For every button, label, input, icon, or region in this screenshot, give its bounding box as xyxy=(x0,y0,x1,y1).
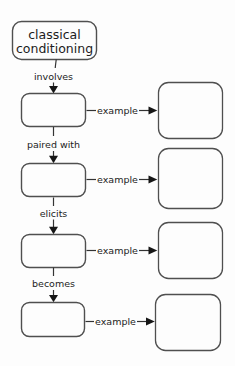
example-connector-2: example xyxy=(87,174,158,185)
example-label-3: example xyxy=(97,245,138,256)
title-line-1: classical xyxy=(28,27,81,42)
arrowhead-right-icon xyxy=(149,176,158,184)
example-label-4: example xyxy=(95,316,136,327)
arrowhead-down-icon xyxy=(49,227,58,235)
arrowhead-down-icon xyxy=(49,86,58,94)
elicits-label: elicits xyxy=(40,208,68,219)
connector-involves: involves xyxy=(34,60,73,94)
arrowhead-right-icon xyxy=(146,318,155,326)
right-box-1 xyxy=(159,83,223,139)
involves-label: involves xyxy=(34,71,73,82)
left-box-2 xyxy=(22,164,86,197)
example-connector-3: example xyxy=(87,245,158,256)
left-box-4 xyxy=(22,303,85,337)
right-box-4 xyxy=(156,295,221,351)
right-box-3 xyxy=(159,223,223,279)
left-box-1 xyxy=(22,94,86,127)
becomes-label: becomes xyxy=(32,278,75,289)
connector-elicits: elicits xyxy=(40,198,68,235)
title-group: classical conditioning xyxy=(13,22,97,60)
connector-becomes: becomes xyxy=(32,268,75,303)
arrowhead-right-icon xyxy=(149,107,158,115)
concept-map-page: classical conditioning involves example … xyxy=(0,0,235,366)
concept-map-canvas: classical conditioning involves example … xyxy=(0,0,235,366)
left-box-3 xyxy=(22,235,86,268)
connector-line xyxy=(55,60,56,69)
example-label-2: example xyxy=(97,174,138,185)
example-label-1: example xyxy=(97,105,138,116)
right-box-2 xyxy=(159,149,223,209)
example-connector-1: example xyxy=(87,105,158,116)
paired-with-label: paired with xyxy=(27,139,80,150)
example-connector-4: example xyxy=(86,316,155,327)
arrowhead-down-icon xyxy=(49,295,58,302)
arrowhead-right-icon xyxy=(149,247,158,255)
connector-paired-with: paired with xyxy=(27,127,80,163)
title-line-2: conditioning xyxy=(16,41,93,56)
arrowhead-down-icon xyxy=(49,156,58,164)
